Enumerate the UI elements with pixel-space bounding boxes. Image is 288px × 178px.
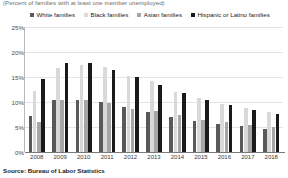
bar[interactable] — [193, 121, 197, 153]
bar-group — [260, 27, 283, 152]
bar-group — [213, 27, 236, 152]
chart-legend: White familiesBlack familiesAsian famili… — [30, 11, 270, 18]
bar[interactable] — [112, 70, 116, 153]
legend-swatch-icon — [137, 13, 141, 17]
bar[interactable] — [99, 102, 103, 153]
bar[interactable] — [33, 91, 37, 153]
legend-item[interactable]: Asian families — [137, 11, 182, 18]
bar[interactable] — [107, 103, 111, 153]
legend-swatch-icon — [30, 13, 34, 17]
x-axis-tick-label: 2014 — [166, 154, 189, 166]
bar[interactable] — [154, 111, 158, 153]
y-axis-tick-label: 20% — [12, 49, 24, 56]
y-axis-tick-label: 10% — [12, 99, 24, 106]
bar[interactable] — [80, 65, 84, 152]
bar[interactable] — [201, 120, 205, 153]
y-axis-tick-label: 5% — [15, 124, 24, 131]
bar-group — [25, 27, 48, 152]
y-axis-tick-label: 0% — [15, 149, 24, 156]
bar[interactable] — [169, 117, 173, 153]
unemployment-by-race-chart: (Percent of families with at least one m… — [0, 0, 288, 178]
bar[interactable] — [103, 67, 107, 153]
legend-item[interactable]: Hispanic or Latino families — [191, 11, 270, 18]
y-axis-tick-label: 25% — [12, 24, 24, 31]
x-axis-tick-label: 2017 — [236, 154, 259, 166]
y-axis-tick-label: 15% — [12, 74, 24, 81]
bar[interactable] — [240, 126, 244, 153]
bar[interactable] — [229, 105, 233, 152]
x-axis-tick-label: 2012 — [119, 154, 142, 166]
bar[interactable] — [225, 122, 229, 152]
x-axis-tick-label: 2009 — [48, 154, 71, 166]
bar[interactable] — [135, 77, 139, 153]
y-axis: 0%5%10%15%20%25% — [0, 21, 26, 153]
x-axis-tick-label: 2013 — [142, 154, 165, 166]
x-axis-tick-label: 2008 — [25, 154, 48, 166]
bar[interactable] — [52, 100, 56, 152]
bar[interactable] — [158, 85, 162, 152]
bar[interactable] — [60, 100, 64, 153]
bar[interactable] — [276, 114, 280, 153]
bar[interactable] — [127, 76, 131, 152]
bar-group — [95, 27, 118, 152]
bar[interactable] — [150, 81, 154, 152]
bar-group — [72, 27, 95, 152]
bar[interactable] — [267, 112, 271, 153]
legend-label: White families — [37, 11, 76, 18]
bar-group — [166, 27, 189, 152]
legend-item[interactable]: White families — [30, 11, 75, 18]
bar[interactable] — [84, 100, 88, 152]
x-axis-tick-label: 2018 — [260, 154, 283, 166]
x-axis-line — [25, 152, 285, 153]
bar[interactable] — [41, 79, 45, 152]
chart-subtitle: (Percent of families with at least one m… — [3, 0, 165, 6]
bar[interactable] — [182, 93, 186, 152]
bar[interactable] — [65, 63, 69, 152]
legend-label: Hispanic or Latino families — [198, 11, 270, 18]
bar[interactable] — [216, 124, 220, 152]
bar-groups — [25, 27, 283, 152]
bar[interactable] — [131, 109, 135, 153]
bar-group — [142, 27, 165, 152]
x-axis-tick-label: 2010 — [72, 154, 95, 166]
bar[interactable] — [37, 122, 41, 153]
legend-label: Asian families — [144, 11, 182, 18]
bar-group — [189, 27, 212, 152]
legend-swatch-icon — [84, 13, 88, 17]
bar[interactable] — [146, 112, 150, 152]
chart-source: Source: Bureau of Labor Statistics — [3, 167, 105, 174]
legend-item[interactable]: Black families — [84, 11, 128, 18]
bar[interactable] — [88, 63, 92, 152]
bar[interactable] — [248, 125, 252, 153]
bar-group — [48, 27, 71, 152]
bar[interactable] — [174, 92, 178, 153]
x-axis-tick-label: 2011 — [95, 154, 118, 166]
bar[interactable] — [205, 100, 209, 152]
bar[interactable] — [220, 104, 224, 153]
bar[interactable] — [178, 115, 182, 152]
bar[interactable] — [244, 108, 248, 153]
legend-label: Black families — [91, 11, 129, 18]
bar[interactable] — [56, 68, 60, 153]
bar[interactable] — [122, 107, 126, 153]
bar[interactable] — [263, 129, 267, 153]
bar[interactable] — [252, 110, 256, 153]
bar-group — [236, 27, 259, 152]
x-axis-tick-label: 2015 — [189, 154, 212, 166]
bar[interactable] — [29, 116, 33, 152]
bar[interactable] — [197, 98, 201, 152]
x-axis-tick-label: 2016 — [213, 154, 236, 166]
bar-group — [119, 27, 142, 152]
legend-swatch-icon — [191, 13, 195, 17]
x-axis: 2008200920102011201220132014201520162017… — [25, 154, 283, 166]
bar[interactable] — [272, 127, 276, 152]
bar[interactable] — [76, 100, 80, 153]
